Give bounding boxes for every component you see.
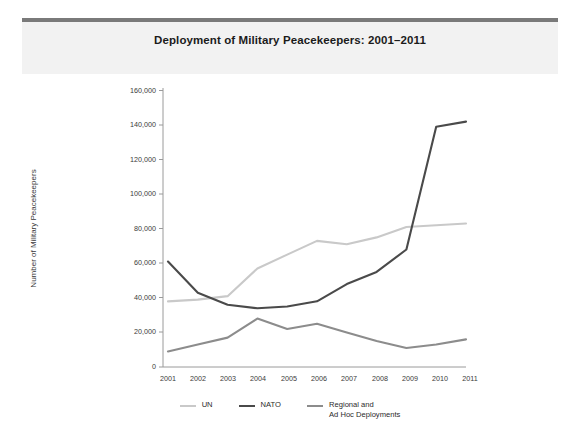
legend-swatch-icon: [239, 405, 255, 407]
legend-item-un[interactable]: UN: [180, 400, 213, 410]
legend-label: UN: [202, 400, 213, 410]
legend-item-regional[interactable]: Regional and Ad Hoc Deployments: [307, 400, 400, 419]
legend-swatch-icon: [307, 405, 323, 407]
series-line-un: [168, 224, 466, 302]
legend-label: NATO: [261, 400, 281, 410]
chart-title: Deployment of Military Peacekeepers: 200…: [22, 34, 558, 46]
line-chart-svg: [0, 76, 580, 396]
x-tick-label: 2011: [450, 374, 490, 383]
legend-item-nato[interactable]: NATO: [239, 400, 281, 410]
series-line-regional: [168, 319, 466, 352]
plot-area: Number of Military Peacekeepers 160,000 …: [0, 76, 580, 441]
chart-figure: Deployment of Military Peacekeepers: 200…: [0, 0, 580, 441]
title-rule: [22, 18, 558, 22]
series-line-nato: [168, 122, 466, 309]
chart-legend: UN NATO Regional and Ad Hoc Deployments: [0, 400, 580, 419]
legend-label: Regional and Ad Hoc Deployments: [329, 400, 400, 419]
legend-swatch-icon: [180, 405, 196, 407]
y-tick-marks: [159, 91, 163, 368]
title-band: [22, 18, 558, 74]
